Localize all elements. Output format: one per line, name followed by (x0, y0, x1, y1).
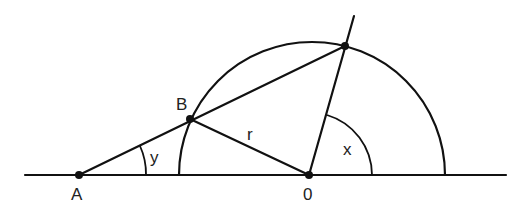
label-B: B (176, 95, 187, 114)
label-A: A (71, 185, 83, 204)
line-A-to-P (79, 46, 345, 175)
label-angle-y: y (150, 148, 159, 167)
label-O: 0 (303, 185, 312, 204)
point-A (75, 171, 83, 179)
label-radius: r (247, 125, 253, 144)
geometry-diagram: A B 0 r y x (0, 0, 520, 211)
angle-y-arc (140, 146, 146, 175)
point-O (305, 171, 313, 179)
point-B (186, 115, 194, 123)
label-angle-x: x (343, 140, 352, 159)
point-P (341, 42, 349, 50)
